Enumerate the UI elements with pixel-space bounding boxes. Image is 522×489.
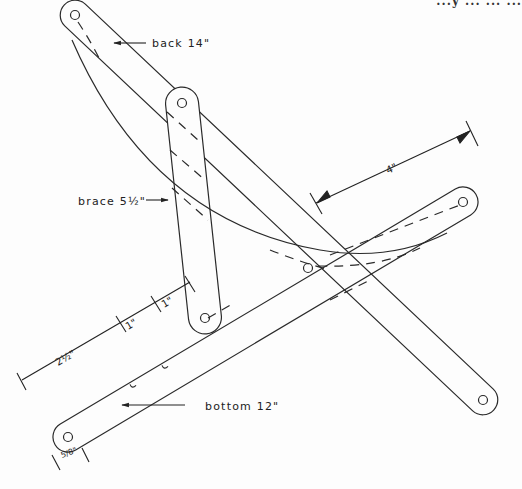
dim-5-8-label: 5/8" bbox=[60, 446, 79, 460]
dim-1b-label: 1" bbox=[160, 295, 175, 310]
back-bottom-hole bbox=[479, 396, 488, 405]
bottom-right-hole bbox=[459, 198, 468, 207]
dim-2-5-label: 2½" bbox=[54, 348, 77, 368]
dim-4-label: 4" bbox=[384, 161, 399, 176]
center-pivot-hole bbox=[304, 264, 313, 273]
linkage-drawing: back 14" brace 5½" bottom 12" 4" 2½" 1" … bbox=[0, 0, 522, 489]
hidden-lines bbox=[78, 22, 460, 318]
bottom-left-hole bbox=[64, 433, 73, 442]
back-label: back 14" bbox=[152, 37, 210, 50]
diagram-canvas: ...y ... ... ... bbox=[0, 0, 522, 489]
bottom-label: bottom 12" bbox=[205, 400, 279, 413]
swing-arc bbox=[72, 40, 447, 254]
brace-label: brace 5½" bbox=[78, 195, 146, 208]
brace-top-hole bbox=[178, 99, 187, 108]
back-top-hole bbox=[71, 11, 80, 20]
